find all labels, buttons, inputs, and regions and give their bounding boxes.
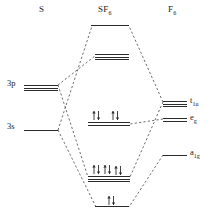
energy-level-line	[88, 176, 130, 177]
correlation-line	[129, 26, 163, 102]
correlation-line	[58, 85, 88, 177]
energy-level-line	[163, 118, 187, 119]
energy-level-line	[163, 155, 187, 156]
level-label-3s: 3s	[7, 121, 15, 131]
energy-level-line	[24, 88, 58, 89]
level-label-3p: 3p	[7, 78, 16, 88]
correlation-line	[58, 26, 92, 130]
level-label-t1u: t1u	[190, 95, 198, 107]
mo-energy-level-diagram: S SF6 F6 3p3st1uega1g	[0, 0, 212, 218]
correlation-line	[58, 56, 95, 85]
energy-level-line	[88, 181, 130, 182]
left-column-header: S	[39, 4, 44, 14]
electron-pair	[107, 195, 116, 206]
correlation-line	[129, 155, 163, 207]
energy-level-line	[88, 179, 130, 180]
level-label-a1g: a1g	[190, 147, 200, 159]
energy-level-line	[163, 121, 187, 122]
energy-level-line	[163, 104, 187, 105]
energy-level-line	[95, 59, 129, 60]
energy-level-line	[95, 206, 129, 207]
electron-pair	[92, 164, 101, 175]
energy-level-line	[163, 106, 187, 107]
energy-level-line	[95, 54, 129, 55]
energy-level-line	[24, 90, 58, 91]
energy-level-line	[88, 125, 130, 126]
electron-pair	[92, 110, 101, 121]
correlation-lines-layer	[0, 0, 212, 218]
correlation-line	[58, 130, 96, 207]
energy-level-line	[91, 25, 129, 26]
right-column-header: F6	[168, 4, 176, 16]
correlation-line	[130, 102, 163, 177]
energy-level-line	[88, 122, 130, 123]
energy-level-line	[95, 57, 129, 58]
level-label-eg: eg	[190, 112, 197, 124]
center-column-header: SF6	[98, 4, 112, 16]
electron-pair	[111, 110, 120, 121]
energy-level-line	[163, 101, 187, 102]
energy-level-line	[24, 130, 58, 131]
correlation-line	[130, 119, 163, 124]
electron-pair	[103, 164, 112, 175]
electron-pair	[114, 165, 123, 176]
energy-level-line	[24, 85, 58, 86]
